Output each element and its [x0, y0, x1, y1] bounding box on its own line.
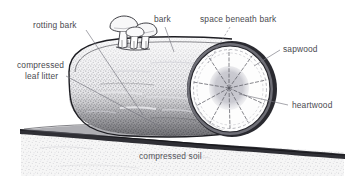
label-compressed-leaf-litter-line1: compressed	[17, 60, 64, 70]
label-sapwood: sapwood	[283, 44, 318, 54]
log-end-cross-section	[187, 41, 277, 137]
label-rotting-bark: rotting bark	[33, 20, 77, 30]
label-compressed-leaf-litter-line2: leaf litter	[25, 71, 58, 81]
label-bark: bark	[154, 14, 172, 24]
label-compressed-soil: compressed soil	[139, 151, 202, 161]
label-space-beneath-bark: space beneath bark	[200, 14, 277, 24]
label-heartwood: heartwood	[292, 100, 333, 110]
log-habitat-diagram: rotting bark compressed leaf litter bark…	[0, 0, 354, 190]
